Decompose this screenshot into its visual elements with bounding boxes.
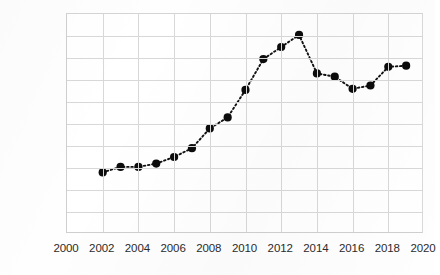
gridline-vertical bbox=[281, 14, 282, 232]
gridline-horizontal bbox=[67, 212, 422, 213]
data-point-marker[interactable] bbox=[366, 81, 374, 89]
data-point-marker[interactable] bbox=[259, 55, 267, 63]
gridline-vertical bbox=[210, 14, 211, 232]
plot-area bbox=[66, 13, 423, 233]
data-point-marker[interactable] bbox=[295, 31, 303, 39]
x-axis-tick-label: 2020 bbox=[398, 242, 440, 254]
gridline-vertical bbox=[174, 14, 175, 232]
gridline-horizontal bbox=[67, 80, 422, 81]
gridline-horizontal bbox=[67, 190, 422, 191]
series-line bbox=[103, 35, 406, 173]
data-point-marker[interactable] bbox=[152, 160, 160, 168]
gridline-horizontal bbox=[67, 168, 422, 169]
gridline-vertical bbox=[103, 14, 104, 232]
gridline-vertical bbox=[353, 14, 354, 232]
data-point-marker[interactable] bbox=[116, 163, 124, 171]
gridline-vertical bbox=[246, 14, 247, 232]
gridline-horizontal bbox=[67, 102, 422, 103]
gridline-horizontal bbox=[67, 58, 422, 59]
gridline-horizontal bbox=[67, 146, 422, 147]
gridline-vertical bbox=[388, 14, 389, 232]
data-point-marker[interactable] bbox=[402, 62, 410, 70]
gridline-horizontal bbox=[67, 124, 422, 125]
data-point-marker[interactable] bbox=[224, 113, 232, 121]
gridline-horizontal bbox=[67, 36, 422, 37]
gridline-vertical bbox=[317, 14, 318, 232]
gridline-vertical bbox=[138, 14, 139, 232]
